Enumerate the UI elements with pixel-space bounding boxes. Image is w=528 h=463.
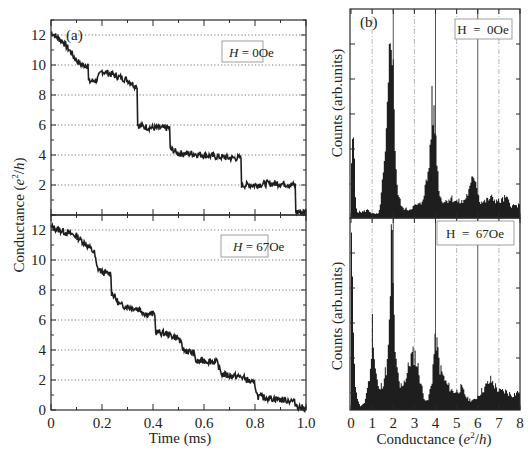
svg-text:8: 8: [516, 415, 524, 431]
svg-text:H = 0Oe: H = 0Oe: [457, 22, 509, 37]
panel-b-top: (b) H = 0Oe: [350, 9, 520, 218]
svg-text:H = 0Oe: H = 0Oe: [228, 45, 274, 60]
svg-text:7: 7: [495, 415, 503, 431]
svg-text:10: 10: [31, 57, 46, 73]
panel-a-bottom: H = 67Oe: [51, 215, 306, 411]
panel-b-bottom: H = 67Oe: [350, 218, 520, 410]
panel-label-a: (a): [66, 27, 83, 44]
svg-text:0: 0: [39, 402, 47, 418]
figure: (a) H = 0Oe H = 67Oe 12108642 121086420 …: [0, 0, 528, 463]
svg-text:8: 8: [39, 282, 47, 298]
panel-label-b: (b): [360, 14, 378, 31]
svg-text:H = 67Oe: H = 67Oe: [446, 226, 504, 241]
x-axis-title-conductance: Conductance (e2/h): [377, 430, 492, 448]
legend-box-0oe: H = 0Oe: [455, 19, 512, 39]
svg-text:2: 2: [39, 177, 47, 193]
svg-text:4: 4: [432, 415, 440, 431]
legend-box-67oe: H = 67Oe: [221, 235, 285, 257]
svg-text:0.6: 0.6: [195, 415, 214, 431]
svg-text:12: 12: [31, 222, 46, 238]
svg-text:0: 0: [347, 415, 355, 431]
svg-text:0: 0: [47, 415, 55, 431]
legend-box-67oe: H = 67Oe: [437, 221, 514, 245]
svg-text:2: 2: [390, 415, 398, 431]
svg-text:5: 5: [453, 415, 461, 431]
y-tick-labels: 12108642: [31, 27, 47, 193]
x-axis-title-time: Time (ms): [149, 430, 211, 447]
x-tick-labels: 012345678: [347, 415, 524, 431]
legend-box-0oe: H = 0Oe: [222, 41, 274, 62]
svg-text:1.0: 1.0: [297, 415, 316, 431]
y-axis-title-counts-bottom: Counts (arb.units): [329, 262, 346, 370]
svg-text:1: 1: [368, 415, 376, 431]
svg-text:4: 4: [39, 147, 47, 163]
svg-text:0.8: 0.8: [246, 415, 265, 431]
svg-text:0.4: 0.4: [144, 415, 163, 431]
svg-text:12: 12: [31, 27, 46, 43]
svg-text:0.2: 0.2: [93, 415, 112, 431]
svg-text:4: 4: [39, 342, 47, 358]
svg-text:8: 8: [39, 87, 47, 103]
y-axis-title-counts-top: Counts (arb.units): [329, 49, 346, 157]
y-tick-labels: 121086420: [31, 222, 47, 418]
x-tick-labels: 00.20.40.60.81.0: [47, 415, 315, 431]
y-axis-title-conductance: Conductance (e2/h): [10, 158, 28, 273]
svg-text:2: 2: [39, 372, 47, 388]
svg-text:H = 67Oe: H = 67Oe: [232, 239, 285, 254]
svg-text:6: 6: [39, 117, 47, 133]
svg-text:3: 3: [411, 415, 419, 431]
svg-text:10: 10: [31, 252, 46, 268]
svg-text:6: 6: [39, 312, 47, 328]
svg-text:6: 6: [474, 415, 482, 431]
panel-a-top: (a) H = 0Oe: [51, 20, 306, 215]
